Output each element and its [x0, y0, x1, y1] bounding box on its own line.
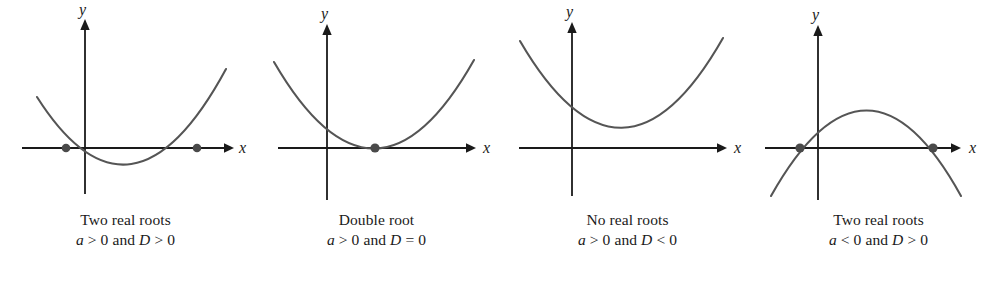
- panel-two-real-roots-positive-a: x y Two real roots a > 0 and D > 0: [0, 0, 251, 285]
- root-marker-right: [928, 143, 937, 152]
- axes-group-2: [278, 24, 476, 200]
- conjunction-1: and: [112, 231, 135, 248]
- parabola-curve-2: [274, 60, 474, 149]
- coefficient-symbol-3: a: [578, 231, 586, 248]
- coefficient-symbol-4: a: [829, 231, 837, 248]
- y-axis-arrowhead-icon: [80, 19, 89, 30]
- caption-condition-3: a > 0 and D < 0: [502, 230, 753, 250]
- caption-condition-2: a > 0 and D = 0: [251, 230, 502, 250]
- panel-caption-4: Two real roots a < 0 and D > 0: [753, 210, 1004, 250]
- x-axis-arrowhead-icon: [951, 143, 961, 152]
- caption-condition-4: a < 0 and D > 0: [753, 230, 1004, 250]
- caption-primary-2: Double root: [251, 210, 502, 230]
- x-axis-arrowhead-icon: [224, 143, 234, 152]
- panel-caption-3: No real roots a > 0 and D < 0: [502, 210, 753, 250]
- axes-group-3: [519, 22, 727, 196]
- coefficient-relation-1: > 0: [88, 231, 109, 248]
- conjunction-3: and: [614, 231, 637, 248]
- discriminant-symbol-3: D: [641, 231, 652, 248]
- y-axis-label: y: [810, 6, 820, 24]
- plot-area-3: x y: [502, 0, 753, 205]
- discriminant-symbol-2: D: [390, 231, 401, 248]
- parabola-curve-3: [520, 38, 723, 128]
- coefficient-relation-3: > 0: [590, 231, 611, 248]
- x-axis-arrowhead-icon: [466, 143, 476, 152]
- quadratic-discriminant-figure: x y Two real roots a > 0 and D > 0 x y: [0, 0, 1006, 285]
- discriminant-relation-4: > 0: [907, 231, 928, 248]
- conjunction-2: and: [363, 231, 386, 248]
- panel-double-root: x y Double root a > 0 and D = 0: [251, 0, 502, 285]
- coefficient-symbol-2: a: [327, 231, 335, 248]
- panel-caption-1: Two real roots a > 0 and D > 0: [0, 210, 251, 250]
- panel-caption-2: Double root a > 0 and D = 0: [251, 210, 502, 250]
- root-marker-left: [795, 143, 804, 152]
- root-marker-left: [62, 144, 71, 153]
- x-axis-arrowhead-icon: [717, 143, 727, 152]
- y-axis-label: y: [564, 3, 574, 21]
- y-axis-arrowhead-icon: [813, 25, 822, 36]
- x-axis-label: x: [733, 139, 741, 156]
- caption-primary-1: Two real roots: [0, 210, 251, 230]
- caption-condition-1: a > 0 and D > 0: [0, 230, 251, 250]
- plot-area-1: x y: [0, 0, 251, 205]
- discriminant-symbol-1: D: [139, 231, 150, 248]
- x-axis-label: x: [482, 139, 490, 156]
- root-marker-double: [370, 143, 379, 152]
- conjunction-4: and: [865, 231, 888, 248]
- coefficient-symbol-1: a: [76, 231, 84, 248]
- coefficient-relation-2: > 0: [339, 231, 360, 248]
- coefficient-relation-4: < 0: [841, 231, 862, 248]
- y-axis-label: y: [319, 5, 329, 23]
- discriminant-relation-1: > 0: [154, 231, 175, 248]
- x-axis-label: x: [968, 139, 976, 156]
- discriminant-symbol-4: D: [892, 231, 903, 248]
- axes-group-4: [765, 25, 961, 200]
- y-axis-arrowhead-icon: [567, 22, 576, 33]
- caption-primary-4: Two real roots: [753, 210, 1004, 230]
- root-marker-right: [193, 144, 202, 153]
- plot-area-4: x y: [753, 0, 1004, 205]
- y-axis-arrowhead-icon: [322, 24, 331, 35]
- discriminant-relation-2: = 0: [405, 231, 426, 248]
- parabola-curve-4: [771, 111, 961, 197]
- panel-two-real-roots-negative-a: x y Two real roots a < 0 and D > 0: [753, 0, 1004, 285]
- plot-area-2: x y: [251, 0, 502, 205]
- x-axis-label: x: [238, 139, 246, 156]
- panel-no-real-roots: x y No real roots a > 0 and D < 0: [502, 0, 753, 285]
- discriminant-relation-3: < 0: [656, 231, 677, 248]
- y-axis-label: y: [77, 1, 87, 19]
- caption-primary-3: No real roots: [502, 210, 753, 230]
